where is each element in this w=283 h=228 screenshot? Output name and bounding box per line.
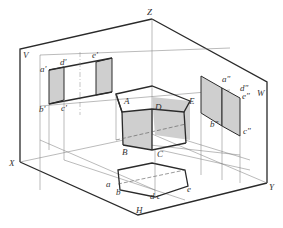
label-vertex-c: C <box>157 149 164 159</box>
label-e-dprime: e" <box>242 91 250 101</box>
axis-label-y: Y <box>269 182 275 192</box>
label-d-prime: d' <box>60 57 68 67</box>
w-projection <box>201 76 240 183</box>
label-h-e: e <box>187 184 191 194</box>
label-c-prime: c' <box>61 103 68 113</box>
label-vertex-e: E <box>188 96 195 106</box>
label-e-prime: e' <box>92 50 99 60</box>
projection-diagram: Z X Y V W H a' d' e' b' c' a" d" e" b" c… <box>0 0 283 228</box>
label-b-dprime: b" <box>210 119 219 129</box>
three-view-projection-figure: Z X Y V W H a' d' e' b' c' a" d" e" b" c… <box>0 0 283 228</box>
label-h-b: b <box>116 187 121 197</box>
plane-label-w: W <box>257 88 266 98</box>
label-a-prime: a' <box>40 64 48 74</box>
axis-label-x: X <box>8 158 15 168</box>
label-vertex-a: A <box>123 96 130 106</box>
plane-label-h: H <box>135 205 143 215</box>
label-vertex-d: D <box>154 102 162 112</box>
h-projection <box>118 150 188 197</box>
label-b-prime: b' <box>39 104 47 114</box>
axis-label-z: Z <box>147 7 153 17</box>
plane-label-v: V <box>23 50 30 60</box>
label-a-dprime: a" <box>222 74 231 84</box>
label-h-a: a <box>106 179 111 189</box>
label-h-dc: d c <box>150 191 161 201</box>
label-vertex-b: B <box>122 147 128 157</box>
label-c-dprime: c" <box>243 126 251 136</box>
